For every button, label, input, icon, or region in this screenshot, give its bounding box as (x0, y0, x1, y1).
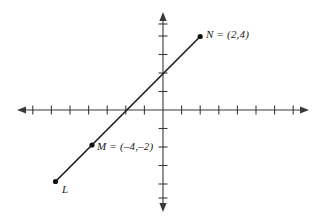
y-axis-top-arrowhead (159, 12, 166, 21)
coordinate-plane-svg (0, 0, 327, 222)
x-axis-left-arrowhead (17, 106, 26, 113)
point-label-m: M = (–4,–2) (97, 140, 153, 152)
y-axis-group (159, 12, 168, 212)
y-axis-bottom-arrowhead (159, 203, 166, 212)
point-M (89, 142, 94, 147)
point-label-l-text: L (62, 183, 68, 195)
x-axis-right-arrowhead (300, 106, 309, 113)
point-L (53, 179, 58, 184)
point-N (198, 34, 203, 39)
point-label-n: N = (2,4) (206, 28, 249, 40)
point-label-m-text: M = (–4,–2) (97, 140, 153, 152)
coordinate-plane-figure: N = (2,4) M = (–4,–2) L (0, 0, 327, 222)
point-label-l: L (62, 183, 68, 195)
point-label-n-text: N = (2,4) (206, 28, 249, 40)
line-through-lmn (56, 37, 201, 182)
